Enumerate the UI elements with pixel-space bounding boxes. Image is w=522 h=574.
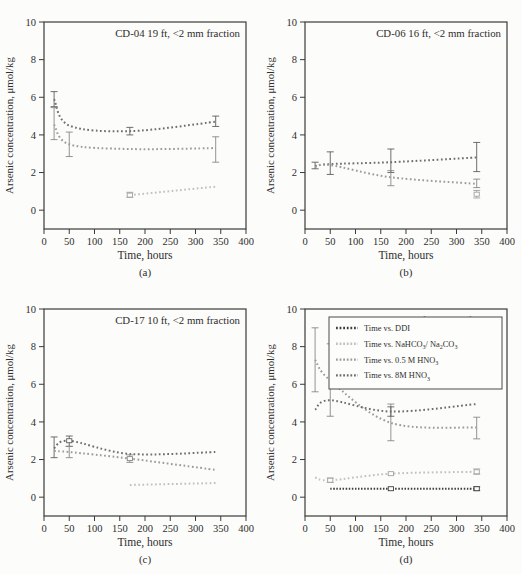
point-marker: [127, 457, 132, 461]
x-tick-label: 350: [474, 236, 490, 247]
chart-panel-a: 0246810050100150200250300350400Arsenic c…: [0, 0, 261, 287]
y-tick-label: 10: [26, 304, 37, 315]
y-tick-label: 2: [292, 454, 297, 465]
x-tick-label: 200: [398, 523, 414, 534]
point-marker: [474, 487, 479, 491]
x-tick-label: 0: [41, 523, 46, 534]
point-marker: [474, 470, 479, 474]
series-hno3_05: [51, 108, 220, 163]
y-tick-label: 6: [31, 92, 36, 103]
y-tick-label: 10: [287, 17, 298, 28]
point-marker: [127, 193, 132, 197]
x-tick-label: 150: [373, 236, 389, 247]
x-tick-label: 400: [238, 523, 254, 534]
x-tick-label: 300: [188, 523, 204, 534]
series-hno3_05: [54, 446, 216, 470]
series-hno3_05: [315, 165, 480, 188]
panel-title: CD-04 19 ft, <2 mm fraction: [115, 27, 240, 39]
point-marker: [328, 478, 333, 482]
chart-svg-c: 0246810050100150200250300350400Arsenic c…: [0, 287, 261, 574]
y-tick-label: 0: [292, 205, 297, 216]
legend-label-hno3_05: Time vs. 0.5 M HNO3: [364, 356, 438, 366]
chart-svg-b: 0246810050100150200250300350400Arsenic c…: [261, 0, 522, 287]
y-tick-label: 8: [292, 341, 297, 352]
y-tick-label: 4: [292, 130, 298, 141]
figure: 0246810050100150200250300350400Arsenic c…: [0, 0, 522, 574]
chart-svg-d: 0246810050100150200250300350400Arsenic c…: [261, 287, 522, 574]
series-hno3_8: [312, 142, 481, 174]
x-tick-label: 100: [348, 523, 364, 534]
x-axis-label: Time, hours: [117, 249, 173, 262]
panel-caption: (c): [139, 553, 152, 566]
chart-panel-b: 0246810050100150200250300350400Arsenic c…: [261, 0, 522, 287]
x-tick-label: 150: [373, 523, 389, 534]
point-marker: [67, 439, 72, 443]
y-tick-label: 8: [292, 54, 297, 65]
x-tick-label: 200: [137, 236, 153, 247]
y-tick-label: 0: [31, 492, 36, 503]
y-tick-label: 4: [292, 417, 298, 428]
series-nahco3: [473, 190, 480, 198]
chart-panel-c: 0246810050100150200250300350400Arsenic c…: [0, 287, 261, 574]
x-tick-label: 200: [398, 236, 414, 247]
x-tick-label: 50: [64, 236, 75, 247]
x-tick-label: 300: [188, 236, 204, 247]
y-axis-label: Arsenic concentration, μmol/kg: [264, 56, 276, 193]
series-line-nahco3: [315, 472, 477, 481]
x-tick-label: 150: [112, 236, 128, 247]
series-line-hno3_8: [315, 157, 477, 165]
x-tick-label: 350: [213, 236, 229, 247]
legend-label-ddi: Time vs. DDI: [364, 324, 410, 333]
series-line-nahco3: [130, 483, 216, 485]
y-tick-label: 2: [31, 454, 36, 465]
legend-label-nahco3: Time vs. NaHCO3/ Na2CO3: [364, 340, 457, 350]
x-tick-label: 350: [474, 523, 490, 534]
series-ddi: [330, 487, 480, 491]
y-tick-label: 0: [292, 492, 297, 503]
series-hno3_8: [51, 92, 220, 135]
y-tick-label: 6: [292, 92, 297, 103]
y-tick-label: 0: [31, 205, 36, 216]
series-nahco3: [130, 483, 216, 485]
series-line-hno3_8: [54, 99, 216, 131]
series-nahco3: [126, 187, 215, 198]
y-tick-label: 4: [31, 417, 37, 428]
y-tick-label: 10: [287, 304, 298, 315]
legend-label-hno3_8: Time vs. 8M HNO3: [364, 371, 430, 381]
y-axis-label: Arsenic concentration, μmol/kg: [3, 343, 15, 480]
x-axis-label: Time, hours: [378, 536, 434, 549]
x-tick-label: 400: [238, 236, 254, 247]
y-tick-label: 8: [31, 54, 36, 65]
y-tick-label: 2: [31, 167, 36, 178]
x-tick-label: 250: [423, 236, 439, 247]
series-nahco3: [315, 469, 480, 483]
legend: Time vs. DDITime vs. NaHCO3/ Na2CO3Time …: [329, 317, 502, 389]
x-axis-label: Time, hours: [117, 536, 173, 549]
x-tick-label: 0: [302, 236, 307, 247]
y-axis-label: Arsenic concentration, μmol/kg: [3, 56, 15, 193]
x-tick-label: 50: [64, 523, 75, 534]
x-tick-label: 50: [325, 523, 336, 534]
x-tick-label: 150: [112, 523, 128, 534]
x-axis-label: Time, hours: [378, 249, 434, 262]
series-line-hno3_05: [54, 125, 216, 150]
chart-svg-a: 0246810050100150200250300350400Arsenic c…: [0, 0, 261, 287]
x-tick-label: 400: [499, 236, 515, 247]
x-tick-label: 200: [137, 523, 153, 534]
chart-panel-d: 0246810050100150200250300350400Arsenic c…: [261, 287, 522, 574]
plot-frame: [44, 309, 246, 516]
series-line-hno3_05: [315, 165, 477, 184]
y-axis-label: Arsenic concentration, μmol/kg: [264, 343, 276, 480]
panel-caption: (b): [400, 266, 413, 279]
x-tick-label: 100: [87, 236, 103, 247]
x-tick-label: 250: [162, 236, 178, 247]
x-tick-label: 250: [162, 523, 178, 534]
x-tick-label: 250: [423, 523, 439, 534]
y-tick-label: 4: [31, 130, 37, 141]
series-line-hno3_8: [315, 400, 477, 411]
x-tick-label: 400: [499, 523, 515, 534]
x-tick-label: 350: [213, 523, 229, 534]
series-hno3_8: [315, 400, 477, 416]
x-tick-label: 100: [87, 523, 103, 534]
y-tick-label: 10: [26, 17, 37, 28]
